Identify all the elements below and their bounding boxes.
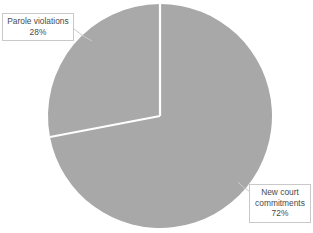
data-label-new-court-commitments[interactable]: New court commitments 72% (249, 184, 311, 223)
data-label-new-court-commitments-name-1: New court (254, 187, 306, 198)
data-label-parole-violations-name: Parole violations (7, 16, 69, 27)
data-label-parole-violations-value: 28% (7, 27, 69, 38)
data-label-new-court-commitments-value: 72% (254, 208, 306, 219)
pie-chart-figure: Parole violations 28% New court commitme… (0, 0, 313, 233)
data-label-new-court-commitments-name-2: commitments (254, 198, 306, 209)
data-label-parole-violations[interactable]: Parole violations 28% (2, 13, 74, 41)
